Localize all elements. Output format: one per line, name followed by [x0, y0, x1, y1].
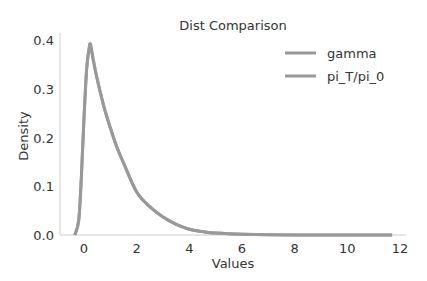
y-tick-label: 0.2	[33, 131, 54, 146]
y-tick-label: 0.0	[33, 228, 54, 243]
y-tick-label: 0.4	[33, 33, 54, 48]
x-tick-label: 12	[392, 241, 409, 256]
x-axis: 024681012 Values	[60, 235, 408, 271]
x-tick-label: 6	[238, 241, 246, 256]
chart-title: Dist Comparison	[179, 18, 286, 33]
legend-label-pi-ratio: pi_T/pi_0	[327, 69, 384, 84]
density-chart: Dist Comparison 0.00.10.20.30.4 Density …	[0, 0, 427, 281]
legend: gamma pi_T/pi_0	[285, 46, 384, 84]
x-tick-label: 8	[290, 241, 298, 256]
y-axis-title: Density	[16, 111, 31, 161]
x-tick-label: 2	[133, 241, 141, 256]
x-tick-label: 0	[80, 241, 88, 256]
x-ticks: 024681012	[80, 241, 408, 256]
x-tick-label: 10	[339, 241, 356, 256]
y-ticks: 0.00.10.20.30.4	[33, 33, 54, 243]
y-axis: 0.00.10.20.30.4 Density	[16, 33, 60, 243]
y-tick-label: 0.3	[33, 82, 54, 97]
x-axis-title: Values	[212, 256, 255, 271]
y-tick-label: 0.1	[33, 179, 54, 194]
legend-label-gamma: gamma	[327, 46, 377, 61]
x-tick-label: 4	[185, 241, 193, 256]
